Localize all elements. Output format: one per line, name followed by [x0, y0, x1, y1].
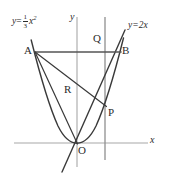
equation-parabola-fraction: 13: [23, 14, 29, 30]
point-label-q: Q: [93, 33, 101, 44]
x-axis-label: x: [150, 135, 154, 145]
point-label-r: R: [64, 84, 71, 95]
equation-parabola-equals: =: [16, 16, 21, 26]
point-label-o: O: [78, 145, 86, 156]
point-label-p: P: [108, 107, 114, 118]
point-label-a: A: [24, 45, 32, 56]
segment-ap: [35, 52, 107, 107]
fraction-numerator: 1: [23, 14, 29, 21]
equation-parabola-exponent: 2: [33, 14, 36, 21]
equation-parabola-label: y=13x2: [12, 14, 37, 30]
fraction-denominator: 3: [23, 21, 29, 30]
math-figure: y=13x2 y=2x y x A B Q P R O: [0, 0, 170, 177]
point-label-b: B: [122, 45, 129, 56]
y-axis-label: y: [70, 12, 74, 22]
equation-line-label: y=2x: [128, 21, 148, 31]
segment-ao: [35, 52, 78, 144]
